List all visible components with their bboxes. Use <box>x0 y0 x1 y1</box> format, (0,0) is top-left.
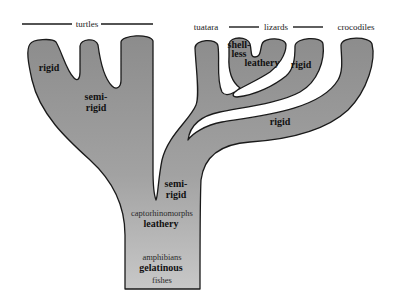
crocodile-rigid-label: rigid <box>270 116 291 127</box>
crocodiles-label: crocodiles <box>338 22 375 32</box>
lizards-label: lizards <box>264 22 288 32</box>
turtles-label: turtles <box>76 19 99 29</box>
amphibians-label: amphibians <box>142 252 181 262</box>
eggshell-evolution-diagram: turtles tuatara lizards crocodiles rigid… <box>0 0 396 304</box>
main-trunk-and-turtle-branches <box>28 36 373 289</box>
leathery-label: leathery <box>144 218 179 229</box>
turtles-header: turtles <box>22 19 153 29</box>
turtle-semirigid-label-2: rigid <box>86 102 107 113</box>
turtle-rigid-label: rigid <box>39 62 60 73</box>
tuatara-label: tuatara <box>194 22 218 32</box>
gelatinous-label: gelatinous <box>139 262 182 273</box>
lizard-rigid-label: rigid <box>291 59 312 70</box>
lizard-leathery-label: leathery <box>245 57 280 68</box>
turtle-semirigid-label-1: semi- <box>85 91 108 102</box>
captorhinomorphs-label: captorhinomorphs <box>131 208 193 218</box>
lizards-header: lizards <box>229 22 323 32</box>
fishes-label: fishes <box>152 275 172 285</box>
trunk-semirigid-label-2: rigid <box>166 189 187 200</box>
trunk-semirigid-label-1: semi- <box>165 178 188 189</box>
